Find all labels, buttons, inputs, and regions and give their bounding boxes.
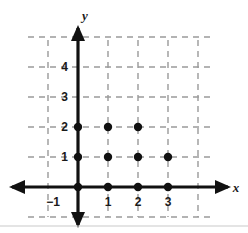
coordinate-plane-figure: −1 1 2 3 1 2 3 4 x y (0, 0, 248, 233)
y-tick-label-3: 3 (61, 90, 68, 104)
x-tick-label-1: 1 (105, 195, 112, 209)
data-point (134, 123, 142, 131)
data-point (134, 183, 142, 191)
data-point (74, 123, 82, 131)
y-tick-label-1: 1 (61, 150, 68, 164)
data-point (164, 183, 172, 191)
x-axis-name-label: x (232, 180, 240, 195)
data-point (164, 153, 172, 161)
y-tick-label-4: 4 (61, 60, 68, 74)
data-point (104, 123, 112, 131)
data-point (104, 183, 112, 191)
x-tick-label-3: 3 (165, 195, 172, 209)
data-point (134, 153, 142, 161)
x-tick-label-neg-1: −1 (46, 195, 60, 209)
y-axis-name-label: y (80, 8, 88, 23)
y-tick-label-2: 2 (61, 120, 68, 134)
data-point (104, 153, 112, 161)
x-tick-label-2: 2 (135, 195, 142, 209)
figure-background (0, 0, 248, 233)
coordinate-plane-svg: −1 1 2 3 1 2 3 4 x y (0, 0, 248, 233)
data-point (74, 183, 82, 191)
data-point (74, 153, 82, 161)
